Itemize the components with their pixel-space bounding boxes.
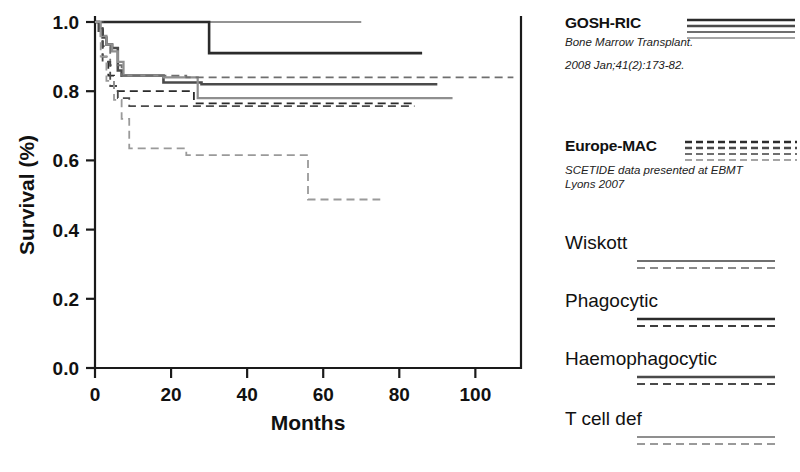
x-tick-label: 40 [237, 384, 258, 405]
legend-group-label: Phagocytic [565, 290, 800, 312]
solid-lines-swatch-icon [685, 16, 797, 42]
solid-dashed-pair-icon [637, 374, 777, 388]
x-tick-label: 100 [460, 384, 492, 405]
legend-cohort-gosh-ric: GOSH-RIC Bone Marrow Transplant. 2008 Ja… [565, 14, 800, 72]
legend-group-swatch [637, 258, 777, 276]
legend-swatch-dashed-stack [683, 138, 799, 168]
solid-dashed-pair-icon [637, 434, 777, 448]
x-axis-title: Months [271, 411, 346, 434]
legend-group-phagocytic: Phagocytic [565, 290, 800, 312]
y-tick-label: 0.0 [53, 358, 79, 379]
series-line [95, 22, 380, 200]
legend-group-haemophagocytic: Haemophagocytic [565, 348, 800, 370]
series-line [95, 22, 415, 103]
legend-swatch-solid-stack [685, 16, 797, 46]
x-tick-label: 80 [389, 384, 410, 405]
series-line [95, 22, 513, 77]
legend-group-swatch [637, 374, 777, 392]
survival-figure: 0.00.20.40.60.81.0020406080100MonthsSurv… [0, 0, 800, 472]
legend-group-swatch [637, 434, 777, 452]
dashed-lines-swatch-icon [683, 138, 799, 164]
series-line [95, 22, 415, 106]
legend-group-label: T cell def [565, 408, 800, 430]
legend-cohort-europe-mac: Europe-MAC SCETIDE data presented at EBM… [565, 137, 800, 192]
y-tick-label: 0.2 [53, 289, 79, 310]
legend-cohort-citation-line2: Lyons 2007 [565, 177, 800, 191]
legend-cohort-citation-line2: 2008 Jan;41(2):173-82. [565, 58, 800, 72]
y-tick-label: 0.6 [53, 150, 79, 171]
km-chart-svg: 0.00.20.40.60.81.0020406080100MonthsSurv… [0, 0, 560, 472]
legend-group-wiskott: Wiskott [565, 232, 800, 254]
legend-panel: GOSH-RIC Bone Marrow Transplant. 2008 Ja… [565, 0, 800, 472]
y-tick-label: 1.0 [53, 12, 79, 33]
series-line [95, 22, 422, 53]
solid-dashed-pair-icon [637, 258, 777, 272]
plot-area: 0.00.20.40.60.81.0020406080100MonthsSurv… [0, 0, 560, 472]
legend-group-label: Haemophagocytic [565, 348, 800, 370]
series-line [95, 22, 453, 98]
y-tick-label: 0.8 [53, 81, 79, 102]
legend-group-label: Wiskott [565, 232, 800, 254]
x-tick-label: 60 [313, 384, 334, 405]
y-tick-label: 0.4 [53, 220, 80, 241]
x-tick-label: 0 [90, 384, 101, 405]
y-axis-title: Survival (%) [15, 135, 38, 255]
legend-group-swatch [637, 316, 777, 334]
solid-dashed-pair-icon [637, 316, 777, 330]
legend-group-t-cell-def: T cell def [565, 408, 800, 430]
x-tick-label: 20 [161, 384, 182, 405]
